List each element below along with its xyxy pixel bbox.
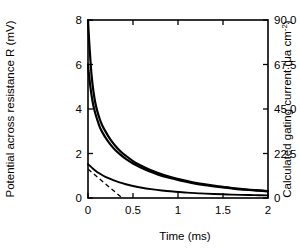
left-tick-label-2: 4 — [76, 103, 83, 115]
bottom-tick-label-4: 2 — [265, 204, 271, 216]
series-middle-decay-curve — [88, 65, 268, 192]
series-dashed-tangent-line — [88, 169, 122, 198]
left-axis-tick-labels: 02468 — [76, 14, 83, 204]
left-tick-label-1: 2 — [76, 148, 82, 160]
bottom-tick-label-0: 0 — [85, 204, 91, 216]
chart-svg: 02468 022.545.067.590.0 00.511.52 Potent… — [0, 0, 300, 249]
left-tick-label-4: 8 — [76, 14, 82, 26]
y2-axis-title-main: Calculated gating current ( — [281, 63, 293, 198]
bottom-tick-label-1: 0.5 — [125, 204, 141, 216]
left-tick-label-3: 6 — [76, 59, 82, 71]
bottom-tick-label-3: 1.5 — [215, 204, 231, 216]
y2-axis-title: Calculated gating current (μa cm-2) — [280, 20, 293, 198]
series-upper-decay-curve — [88, 20, 268, 191]
plot-frame — [88, 20, 268, 198]
y2-axis-title-unit: μa cm — [281, 31, 293, 63]
bottom-axis-tick-labels: 00.511.52 — [85, 204, 271, 216]
data-curves — [88, 20, 268, 198]
x-axis-title: Time (ms) — [159, 230, 210, 242]
bottom-tick-label-2: 1 — [175, 204, 181, 216]
y-axis-title: Potential across resistance R (mV) — [4, 20, 16, 197]
y2-axis-title-close: ) — [281, 20, 293, 24]
right-tick-label-0: 0 — [274, 192, 280, 204]
chart-figure: 02468 022.545.067.590.0 00.511.52 Potent… — [0, 0, 300, 249]
left-tick-label-0: 0 — [76, 192, 82, 204]
